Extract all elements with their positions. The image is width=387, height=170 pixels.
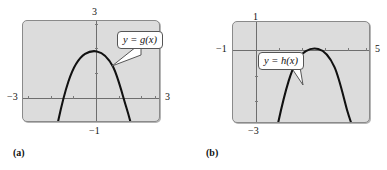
axis-label-a-left: −3 — [7, 92, 18, 102]
panel-a: y = g(x) −3 3 3 −1 (a) — [0, 0, 194, 170]
callout-label-b: y = h(x) — [258, 52, 304, 70]
axis-label-b-left: −1 — [216, 44, 227, 54]
axis-label-a-bottom: −1 — [89, 126, 100, 136]
panel-label-a: (a) — [13, 147, 25, 158]
axis-label-a-top: 3 — [92, 7, 97, 17]
axis-label-b-right: 5 — [375, 44, 380, 54]
panel-b: y = h(x) −1 5 1 −3 (b) — [193, 0, 387, 170]
axis-label-b-top: 1 — [253, 12, 258, 22]
axis-label-b-bottom: −3 — [248, 126, 259, 136]
axis-label-a-right: 3 — [165, 92, 170, 102]
callout-label-a: y = g(x) — [117, 31, 163, 49]
panel-label-b: (b) — [206, 147, 218, 158]
